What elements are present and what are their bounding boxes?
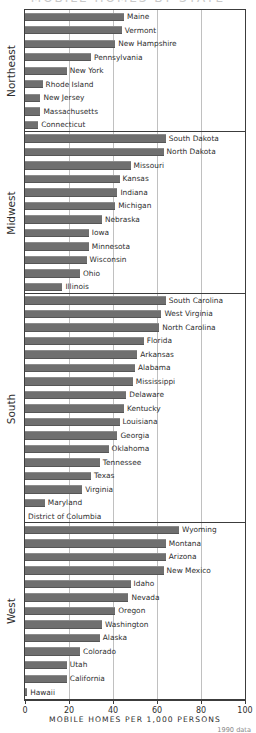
bar-row: Tennessee <box>25 458 245 466</box>
bar-label: Alaska <box>100 634 127 641</box>
bar-alabama <box>25 364 135 372</box>
region-label-south: South <box>0 294 22 524</box>
bar-row: Indiana <box>25 188 245 196</box>
x-tick-label-20: 20 <box>64 706 74 715</box>
plot-area: MaineVermontNew HampshirePennsylvaniaNew… <box>24 9 246 700</box>
bar-alaska <box>25 634 100 642</box>
bar-tennessee <box>25 458 100 466</box>
bar-row: Connecticut <box>25 121 245 129</box>
bar-row: District of Columbia <box>25 512 245 520</box>
bar-row: West Virginia <box>25 310 245 318</box>
bar-pennsylvania <box>25 53 91 61</box>
bar-georgia <box>25 431 117 439</box>
bar-kentucky <box>25 404 124 412</box>
bar-label: Oregon <box>115 607 145 614</box>
x-tick-label-40: 40 <box>108 706 118 715</box>
bar-maine <box>25 13 124 21</box>
bar-row: Delaware <box>25 391 245 399</box>
bar-row: Pennsylvania <box>25 53 245 61</box>
bar-arkansas <box>25 350 137 358</box>
region-panel-midwest: South DakotaNorth DakotaMissouriKansasIn… <box>25 132 245 294</box>
bar-montana <box>25 539 166 547</box>
bar-label: Maryland <box>45 499 82 506</box>
bar-california <box>25 675 67 683</box>
bar-label: Wisconsin <box>87 256 127 263</box>
bar-label: New Jersey <box>40 94 84 101</box>
bar-rows: WyomingMontanaArizonaNew MexicoIdahoNeva… <box>25 523 245 699</box>
bar-row: Mississippi <box>25 377 245 385</box>
bar-rows: MaineVermontNew HampshirePennsylvaniaNew… <box>25 10 245 131</box>
bar-washington <box>25 620 102 628</box>
bar-row: Massachusetts <box>25 107 245 115</box>
bar-label: Colorado <box>80 648 116 655</box>
bar-arizona <box>25 553 166 561</box>
bar-idaho <box>25 580 131 588</box>
bar-label: North Carolina <box>159 324 215 331</box>
region-label-northeast: Northeast <box>0 10 22 132</box>
bar-label: Florida <box>144 337 172 344</box>
bar-nevada <box>25 593 128 601</box>
bar-row: North Dakota <box>25 148 245 156</box>
x-axis-title: MOBILE HOMES PER 1,000 PERSONS <box>24 715 246 724</box>
bar-massachusetts <box>25 107 40 115</box>
bar-label: Hawaii <box>27 689 55 696</box>
region-label-text: West <box>5 598 17 624</box>
bar-row: Georgia <box>25 431 245 439</box>
bar-new-jersey <box>25 94 40 102</box>
bar-label: Georgia <box>117 432 149 439</box>
bar-row: South Dakota <box>25 134 245 142</box>
bar-row: Minnesota <box>25 242 245 250</box>
bar-row: Ohio <box>25 269 245 277</box>
bar-missouri <box>25 161 131 169</box>
bar-minnesota <box>25 242 89 250</box>
bar-label: Ohio <box>80 270 100 277</box>
bar-row: Missouri <box>25 161 245 169</box>
bar-row: Oklahoma <box>25 445 245 453</box>
bar-north-dakota <box>25 148 164 156</box>
bar-row: New Jersey <box>25 94 245 102</box>
bar-label: Indiana <box>117 189 147 196</box>
bar-label: Alabama <box>135 364 171 371</box>
region-panel-northeast: MaineVermontNew HampshirePennsylvaniaNew… <box>25 10 245 132</box>
bar-label: Montana <box>166 540 201 547</box>
bar-row: Arizona <box>25 553 245 561</box>
bar-row: Kentucky <box>25 404 245 412</box>
region-label-text: Midwest <box>5 191 17 234</box>
bar-kansas <box>25 175 120 183</box>
x-axis: 020406080100 <box>24 700 246 701</box>
bar-iowa <box>25 229 89 237</box>
bar-label: Kansas <box>120 175 149 182</box>
bar-label: Texas <box>91 472 114 479</box>
bar-west-virginia <box>25 310 161 318</box>
bar-label: Oklahoma <box>109 445 150 452</box>
bar-maryland <box>25 499 45 507</box>
bar-oklahoma <box>25 445 109 453</box>
bar-label: South Dakota <box>166 135 219 142</box>
bar-virginia <box>25 485 82 493</box>
bar-row: Alabama <box>25 364 245 372</box>
bar-label: Louisiana <box>120 418 158 425</box>
bar-row: Michigan <box>25 202 245 210</box>
bar-row: Hawaii <box>25 688 245 696</box>
bar-row: Texas <box>25 472 245 480</box>
bar-label: California <box>67 675 105 682</box>
x-tick-80 <box>201 700 202 704</box>
bar-label: District of Columbia <box>25 513 101 520</box>
bar-row: Montana <box>25 539 245 547</box>
bar-label: Pennsylvania <box>91 54 143 61</box>
bar-texas <box>25 472 91 480</box>
bar-rhode-island <box>25 80 43 88</box>
bar-row: New York <box>25 67 245 75</box>
bar-row: Kansas <box>25 175 245 183</box>
bar-row: Maryland <box>25 499 245 507</box>
bar-label: Vermont <box>122 27 156 34</box>
bar-row: Louisiana <box>25 418 245 426</box>
bar-row: Illinois <box>25 283 245 291</box>
bar-south-dakota <box>25 134 166 142</box>
bar-new-york <box>25 67 67 75</box>
region-panel-south: South CarolinaWest VirginiaNorth Carolin… <box>25 294 245 524</box>
bar-row: Iowa <box>25 229 245 237</box>
bar-label: Washington <box>102 621 148 628</box>
bar-row: Nebraska <box>25 215 245 223</box>
region-label-text: Northeast <box>5 45 17 97</box>
